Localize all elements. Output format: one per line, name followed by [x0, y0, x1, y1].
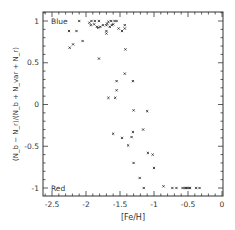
- x-tick-label: -1: [150, 200, 158, 209]
- data-point: [139, 177, 141, 179]
- data-point: [121, 30, 123, 32]
- y-tick-label: 0.5: [27, 58, 39, 67]
- tick-labels: -2.5-2-1.5-1-0.50-1-0.500.51: [24, 17, 224, 210]
- data-point: [107, 21, 109, 23]
- data-point: [116, 20, 118, 22]
- x-tick-label: -2.5: [45, 200, 60, 209]
- data-point: [98, 20, 100, 22]
- axis-ticks: [43, 12, 223, 196]
- data-point: [94, 20, 96, 22]
- data-point: [195, 187, 197, 189]
- data-points: [68, 20, 201, 189]
- data-point: [124, 24, 126, 26]
- data-point: [153, 167, 155, 169]
- data-point: [146, 110, 148, 112]
- y-tick-label: 1: [34, 17, 39, 26]
- y-axis-label: (N_b − N_r)/(N_b + N_var + N_r): [12, 47, 20, 161]
- data-point: [124, 73, 126, 75]
- data-point: [175, 187, 177, 189]
- scatter-chart: -2.5-2-1.5-1-0.50-1-0.500.51 BlueRed [Fe…: [0, 0, 235, 230]
- annotations: BlueRed: [51, 17, 68, 193]
- x-tick-label: -0.5: [181, 200, 196, 209]
- x-tick-label: 0: [220, 200, 225, 209]
- data-point: [116, 89, 118, 91]
- data-point: [102, 24, 104, 26]
- data-point: [124, 27, 126, 29]
- data-point: [114, 97, 116, 99]
- data-point: [162, 185, 164, 187]
- data-point: [105, 32, 107, 34]
- data-point: [121, 137, 123, 139]
- data-point: [93, 23, 95, 25]
- data-point: [118, 27, 120, 29]
- data-point: [133, 109, 135, 111]
- x-tick-label: -2: [82, 200, 90, 209]
- data-point: [90, 20, 92, 22]
- data-point: [127, 144, 129, 146]
- chart-svg: -2.5-2-1.5-1-0.50-1-0.500.51 BlueRed [Fe…: [0, 0, 235, 230]
- annotation-blue: Blue: [51, 17, 68, 26]
- data-point: [68, 30, 70, 32]
- plot-frame: [43, 12, 223, 196]
- data-point: [143, 187, 145, 189]
- data-point: [133, 162, 135, 164]
- x-axis-label: [Fe/H]: [121, 213, 145, 222]
- data-point: [105, 30, 107, 32]
- data-point: [78, 20, 80, 22]
- data-point: [82, 40, 84, 42]
- data-point: [171, 187, 173, 189]
- data-point: [152, 154, 154, 156]
- data-point: [116, 80, 118, 82]
- data-point: [130, 136, 132, 138]
- data-point: [142, 128, 144, 130]
- data-point: [112, 133, 114, 135]
- data-point: [75, 30, 77, 32]
- data-point: [198, 187, 200, 189]
- data-point: [132, 80, 134, 82]
- data-point: [107, 97, 109, 99]
- x-tick-label: -1.5: [113, 200, 128, 209]
- y-tick-label: -1: [32, 184, 40, 193]
- y-tick-label: 0: [34, 100, 39, 109]
- data-point: [72, 43, 74, 45]
- data-point: [124, 48, 126, 50]
- data-point: [98, 57, 100, 59]
- data-point: [132, 131, 134, 133]
- data-point: [90, 24, 92, 26]
- data-point: [69, 47, 71, 49]
- annotation-red: Red: [51, 184, 65, 193]
- y-tick-label: -0.5: [24, 142, 39, 151]
- data-point: [110, 20, 112, 22]
- data-point: [147, 152, 149, 154]
